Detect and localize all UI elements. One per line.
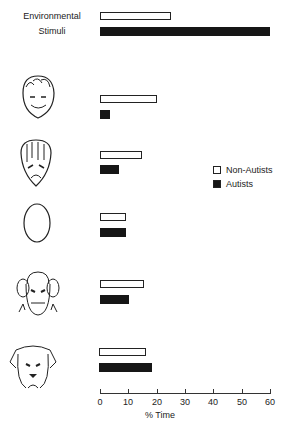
legend-filled-swatch-icon: [213, 180, 221, 188]
blank-face-icon: [22, 202, 52, 244]
dog-face-icon: [8, 342, 58, 390]
x-axis-label: % Time: [135, 410, 185, 420]
legend-autists: Autists: [213, 179, 253, 189]
tick: [242, 389, 243, 394]
bar-sad-autists: [100, 165, 119, 174]
tick-label: 60: [260, 397, 280, 407]
legend-label: Non-Autists: [226, 165, 273, 175]
bar-smiling-non-autists: [100, 95, 157, 103]
tick-label: 50: [232, 397, 252, 407]
tick: [128, 389, 129, 394]
bar-dog-non-autists: [99, 348, 146, 356]
tick-label: 30: [175, 397, 195, 407]
bar-monkey-autists: [100, 295, 129, 304]
sad-face-icon: [18, 138, 54, 188]
bar-sad-non-autists: [100, 151, 142, 159]
tick: [185, 389, 186, 394]
legend-label: Autists: [226, 179, 253, 189]
tick: [213, 389, 214, 394]
bar-smiling-autists: [100, 110, 110, 119]
bar-environmental-autists: [100, 27, 270, 36]
tick-label: 40: [203, 397, 223, 407]
bar-environmental-non-autists: [100, 12, 171, 20]
bar-blank-non-autists: [100, 213, 126, 221]
tick: [100, 389, 101, 394]
tick: [157, 389, 158, 394]
legend-open-swatch-icon: [213, 166, 221, 174]
tick-label: 20: [147, 397, 167, 407]
monkey-face-icon: [15, 270, 61, 318]
smiling-face-icon: [18, 73, 58, 121]
tick-label: 0: [90, 397, 110, 407]
tick-label: 10: [118, 397, 138, 407]
category-label-environmental: Environmental: [12, 10, 92, 22]
legend-non-autists: Non-Autists: [213, 165, 273, 175]
category-label-stimuli: Stimuli: [12, 25, 92, 37]
tick: [270, 389, 271, 394]
bar-monkey-non-autists: [100, 280, 144, 288]
bar-dog-autists: [99, 363, 152, 372]
bar-blank-autists: [100, 228, 126, 237]
